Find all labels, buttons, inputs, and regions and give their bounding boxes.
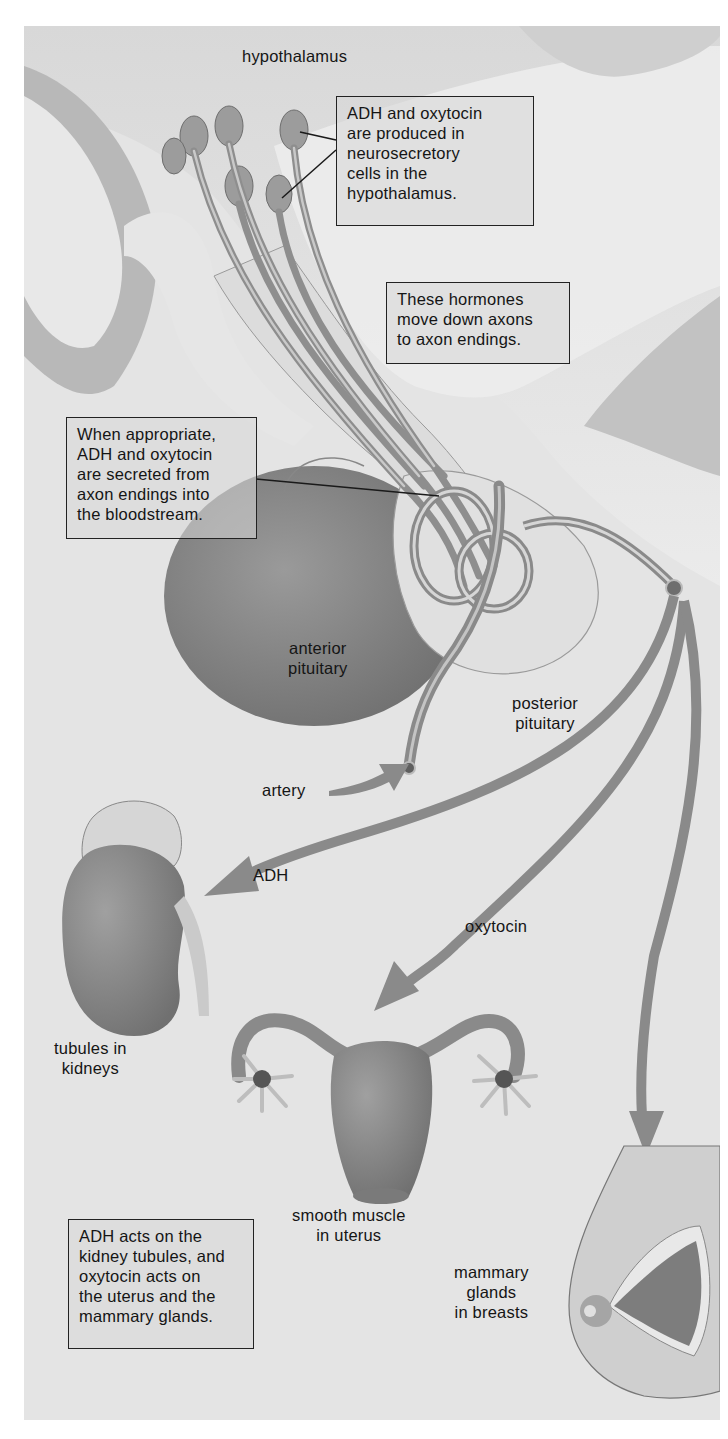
summary-callout: ADH acts on the kidney tubules, and oxyt… (68, 1219, 254, 1349)
mammary-label: mammary glands in breasts (454, 1262, 529, 1322)
diagram-canvas: hypothalamus ADH and oxytocin are produc… (24, 26, 720, 1420)
uterus-illustration (234, 1020, 536, 1204)
posterior-pituitary-label: posterior pituitary (512, 693, 578, 733)
secretion-callout: When appropriate, ADH and oxytocin are s… (66, 417, 257, 539)
production-callout: ADH and oxytocin are produced in neurose… (336, 96, 534, 226)
artery-arrow (329, 764, 409, 796)
transport-callout: These hormones move down axons to axon e… (386, 282, 570, 364)
artery-label: artery (262, 780, 305, 800)
kidney-illustration (62, 801, 209, 1036)
adh-label: ADH (253, 865, 288, 885)
kidneys-label: tubules in kidneys (54, 1038, 127, 1078)
oxytocin-label: oxytocin (465, 916, 527, 936)
breast-illustration (569, 1146, 720, 1398)
uterus-label: smooth muscle in uterus (292, 1205, 406, 1245)
hypothalamus-label: hypothalamus (242, 46, 347, 66)
anterior-pituitary-label: anterior pituitary (288, 638, 348, 678)
